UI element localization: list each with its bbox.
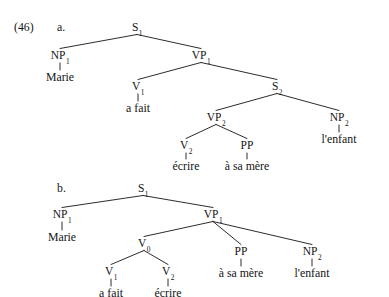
node-category-label: NP bbox=[53, 208, 68, 220]
tree-node-b-v2: V2 bbox=[162, 266, 174, 278]
tree-leaf-b-marie: Marie bbox=[48, 232, 76, 244]
branch-a-s2-to-a-np2 bbox=[277, 94, 339, 111]
node-category-label: S bbox=[132, 21, 139, 33]
node-index-subscript: 2 bbox=[318, 253, 322, 262]
tree-node-b-np2: NP2 bbox=[303, 246, 322, 258]
branch-b-s1-to-b-np1 bbox=[62, 196, 143, 208]
branch-a-s1-to-a-np1 bbox=[60, 35, 137, 49]
branch-a-s1-to-a-vp1 bbox=[137, 35, 201, 49]
node-category-label: VP bbox=[204, 208, 219, 220]
node-category-label: S bbox=[138, 182, 145, 194]
branch-b-vp1-to-b-v0 bbox=[144, 222, 213, 237]
tree-leaf-a-ecrire: écrire bbox=[173, 161, 200, 173]
tree-a-label: a. bbox=[57, 22, 65, 34]
tree-node-a-s1: S1 bbox=[132, 22, 142, 34]
node-index-subscript: 2 bbox=[345, 119, 349, 128]
branch-a-vp2-to-a-pp bbox=[216, 125, 247, 139]
node-category-label: VP bbox=[192, 49, 207, 61]
tree-node-a-v1: V1 bbox=[132, 81, 144, 93]
branch-a-vp1-to-a-s2 bbox=[201, 63, 277, 80]
tree-node-b-s1: S1 bbox=[138, 183, 148, 195]
node-category-label: V bbox=[132, 80, 140, 92]
node-index-subscript: 1 bbox=[145, 190, 149, 199]
node-category-label: V bbox=[138, 237, 146, 249]
branch-b-s1-to-b-vp1 bbox=[143, 196, 213, 208]
node-index-subscript: 1 bbox=[139, 29, 143, 38]
node-index-subscript: 1 bbox=[141, 88, 145, 97]
tree-node-a-v2: V2 bbox=[180, 140, 192, 152]
tree-node-a-pp: PP bbox=[241, 140, 254, 152]
branch-a-vp2-to-a-v2 bbox=[186, 125, 216, 139]
node-index-subscript: 1 bbox=[114, 273, 118, 282]
node-index-subscript: 1 bbox=[66, 57, 70, 66]
node-category-label: NP bbox=[303, 245, 318, 257]
branch-a-vp1-to-a-v1 bbox=[138, 63, 201, 80]
example-number: (46) bbox=[14, 22, 34, 34]
branch-a-s2-to-a-vp2 bbox=[216, 94, 277, 111]
branch-b-v0-to-b-v1 bbox=[111, 251, 144, 265]
tree-leaf-a-marie: Marie bbox=[46, 72, 74, 84]
node-index-subscript: 1 bbox=[68, 216, 72, 225]
tree-node-b-np1: NP1 bbox=[53, 209, 72, 221]
tree-leaf-b-ecrire: écrire bbox=[155, 288, 182, 297]
syntax-tree-figure: (46) a. b. S1NP1VP1V1S2VP2NP2V2PPMariea … bbox=[0, 0, 389, 297]
node-category-label: S bbox=[272, 80, 279, 92]
tree-leaf-b-lenfant: l'enfant bbox=[295, 268, 330, 280]
node-index-subscript: 2 bbox=[222, 119, 226, 128]
tree-leaf-b-asamere: à sa mère bbox=[219, 268, 264, 280]
tree-node-b-v0: V0 bbox=[138, 238, 150, 250]
tree-b-label: b. bbox=[57, 183, 66, 195]
node-category-label: V bbox=[105, 265, 113, 277]
node-index-subscript: 1 bbox=[219, 216, 223, 225]
tree-node-a-vp2: VP2 bbox=[207, 112, 226, 124]
tree-leaf-b-afait: a fait bbox=[99, 288, 123, 297]
tree-node-a-vp1: VP1 bbox=[192, 50, 211, 62]
tree-branch-layer bbox=[0, 0, 389, 297]
branch-b-vp1-to-b-np2 bbox=[213, 222, 312, 245]
node-index-subscript: 1 bbox=[207, 57, 211, 66]
node-category-label: PP bbox=[241, 139, 254, 151]
tree-node-b-pp: PP bbox=[235, 246, 248, 258]
tree-node-b-v1: V1 bbox=[105, 266, 117, 278]
node-category-label: NP bbox=[51, 49, 66, 61]
tree-node-b-vp1: VP1 bbox=[204, 209, 223, 221]
tree-leaf-a-asamere: à sa mère bbox=[225, 161, 270, 173]
tree-leaf-a-afait: a fait bbox=[126, 103, 150, 115]
tree-node-a-np1: NP1 bbox=[51, 50, 70, 62]
branch-b-vp1-to-b-pp bbox=[213, 222, 241, 245]
node-category-label: V bbox=[162, 265, 170, 277]
node-category-label: PP bbox=[235, 245, 248, 257]
node-index-subscript: 0 bbox=[147, 245, 151, 254]
tree-node-a-s2: S2 bbox=[272, 81, 282, 93]
node-category-label: VP bbox=[207, 111, 222, 123]
tree-node-a-np2: NP2 bbox=[330, 112, 349, 124]
node-category-label: NP bbox=[330, 111, 345, 123]
node-index-subscript: 2 bbox=[189, 147, 193, 156]
node-category-label: V bbox=[180, 139, 188, 151]
node-index-subscript: 2 bbox=[171, 273, 175, 282]
tree-leaf-a-lenfant: l'enfant bbox=[322, 134, 357, 146]
node-index-subscript: 2 bbox=[279, 88, 283, 97]
